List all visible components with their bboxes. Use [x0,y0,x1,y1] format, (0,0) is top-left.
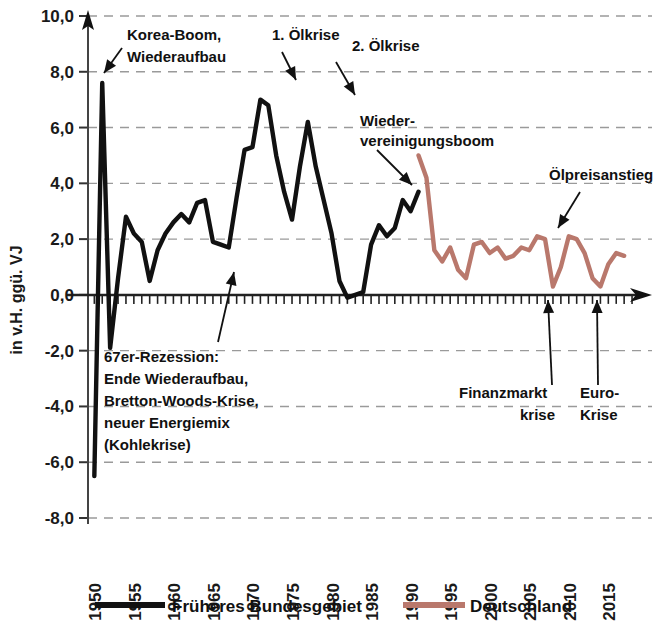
annotation-arrow-oil2 [336,62,355,95]
x-axis-ticks [94,295,632,304]
y-axis-tick-label: 10,0 [41,7,74,26]
y-axis-tick-label: -2,0 [45,342,74,361]
annotation-korea: Korea-Boom,Wiederaufbau [127,26,226,65]
annotation-text: 2. Ölkrise [352,37,420,54]
x-axis-tick-label: 2015 [600,583,619,621]
annotation-arrow-oelpreis [558,192,580,228]
annotation-text: Wieder- [360,112,415,129]
arrow-head [558,214,569,228]
legend-label: Früheres Bundesgebiet [172,597,362,616]
annotation-text: Korea-Boom, [127,26,221,43]
y-axis-tick-label: 8,0 [50,63,74,82]
annotation-finanzmarktkrise: Finanzmarktkrise [459,384,555,423]
gdp-growth-line-chart: 10,08,06,04,02,00,0-2,0-4,0-6,0-8,0 1950… [0,0,664,622]
annotation-arrow-rezession67 [218,272,236,342]
annotation-eurokrise: Euro-Krise [580,384,619,423]
y-axis-tick-labels: 10,08,06,04,02,00,0-2,0-4,0-6,0-8,0 [41,7,74,528]
x-axis-tick-label: 1955 [126,583,145,621]
y-axis-tick-label: -6,0 [45,453,74,472]
annotation-text: krise [520,406,555,423]
annotation-text: Finanzmarkt [459,384,547,401]
annotation-arrow-eurokrise [592,300,603,385]
legend-item-2[interactable]: Deutschland [403,597,572,616]
annotation-text: Krise [580,406,618,423]
chart-container: 10,08,06,04,02,00,0-2,0-4,0-6,0-8,0 1950… [0,0,664,622]
annotation-text: Bretton-Woods-Krise, [104,392,259,409]
annotation-oil2: 2. Ölkrise [352,37,420,54]
annotation-text: vereinigungsboom [360,132,494,149]
x-axis-tick-label: 1995 [442,583,461,621]
annotation-text: Euro- [580,384,619,401]
annotation-oil1: 1. Ölkrise [272,26,340,43]
y-axis-tick-label: 6,0 [50,119,74,138]
y-axis-tick-label: 0,0 [50,286,74,305]
annotation-arrow-korea [104,48,122,73]
x-axis-tick-label: 1950 [86,583,105,621]
annotation-text: 67er-Rezession: [104,348,219,365]
annotation-text: 1. Ölkrise [272,26,340,43]
legend-label: Deutschland [470,597,572,616]
annotation-text: Wiederaufbau [127,48,226,65]
annotation-rezession67: 67er-Rezession:Ende Wiederaufbau,Bretton… [104,348,259,453]
y-axis-tick-label: 2,0 [50,230,74,249]
annotation-wiedervereinigung: Wieder-vereinigungsboom [360,112,494,149]
x-axis-tick-label: 1990 [403,583,422,621]
y-axis-title: in v.H. ggü. VJ [8,245,25,354]
annotation-text: Ende Wiederaufbau, [104,370,248,387]
y-axis-tick-label: -4,0 [45,397,74,416]
arrow-head [226,272,237,286]
annotation-text: Ölpreisanstieg [549,166,653,183]
annotation-arrow-wiedervereinigung [377,150,412,185]
annotation-arrow-finanzmarktkrise [543,300,554,385]
arrow-head [104,59,116,73]
y-axis-ticks [79,16,88,518]
annotation-text: (Kohlekrise) [104,436,191,453]
annotation-oelpreis: Ölpreisanstieg [549,166,653,183]
x-axis-tick-label: 1985 [363,583,382,621]
y-axis-tick-label: -8,0 [45,509,74,528]
annotation-arrow-oil1 [282,52,296,80]
y-axis-tick-label: 4,0 [50,174,74,193]
arrow-head [344,81,355,95]
annotation-text: neuer Energiemix [104,414,231,431]
